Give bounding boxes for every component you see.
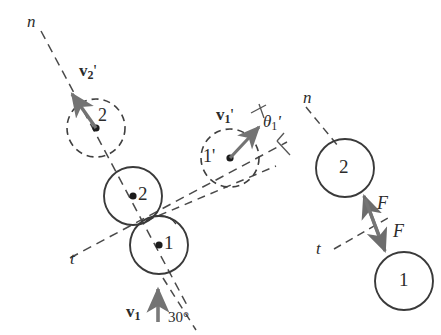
ball-2-contact-number: 2 (138, 184, 148, 203)
ball-1-after-number: 1' (203, 147, 215, 165)
right-normal-axis-label: n (303, 89, 312, 106)
v1-prime-symbol: v (216, 105, 225, 124)
fbd-ball-1-number: 1 (399, 270, 409, 289)
v1-initial-symbol: v (126, 302, 135, 321)
v2-prime-symbol: v (79, 61, 88, 80)
v1-prime-arrow (230, 127, 259, 158)
v1-initial-label: v1 (126, 303, 141, 322)
right-tangent-axis-label: t (316, 240, 321, 257)
force-on-1-label: F (393, 222, 404, 240)
left-normal-axis (41, 31, 188, 307)
theta-1-prime-label: θ1' (263, 113, 281, 132)
figure-canvas: n t v2' 2 2 1 1' v1' θ1' v1 30° n t 2 1 … (0, 0, 441, 335)
left-normal-axis-label: n (27, 13, 36, 30)
diagram-vector-layer (0, 0, 441, 335)
left-tangent-axis-label: t (70, 250, 75, 267)
left-ball1-deflection-path (146, 166, 276, 221)
incidence-angle-label: 30° (168, 310, 189, 325)
theta-prime: ' (277, 112, 281, 131)
right-normal-axis (306, 107, 338, 146)
fbd-ball-2-number: 2 (339, 157, 349, 176)
force-on-2-label: F (377, 194, 388, 212)
ball-1-contact-circle (130, 216, 188, 274)
ball-1-contact-number: 1 (164, 233, 174, 252)
v1-prime-prime: ' (231, 105, 234, 124)
v1-prime-label: v1' (216, 106, 234, 125)
left-tangent-axis (70, 142, 287, 258)
ball-2-after-number: 2 (98, 106, 107, 124)
v2-prime-prime: ' (94, 61, 97, 80)
v1-initial-subscript: 1 (135, 309, 141, 323)
v2-prime-label: v2' (79, 62, 97, 81)
